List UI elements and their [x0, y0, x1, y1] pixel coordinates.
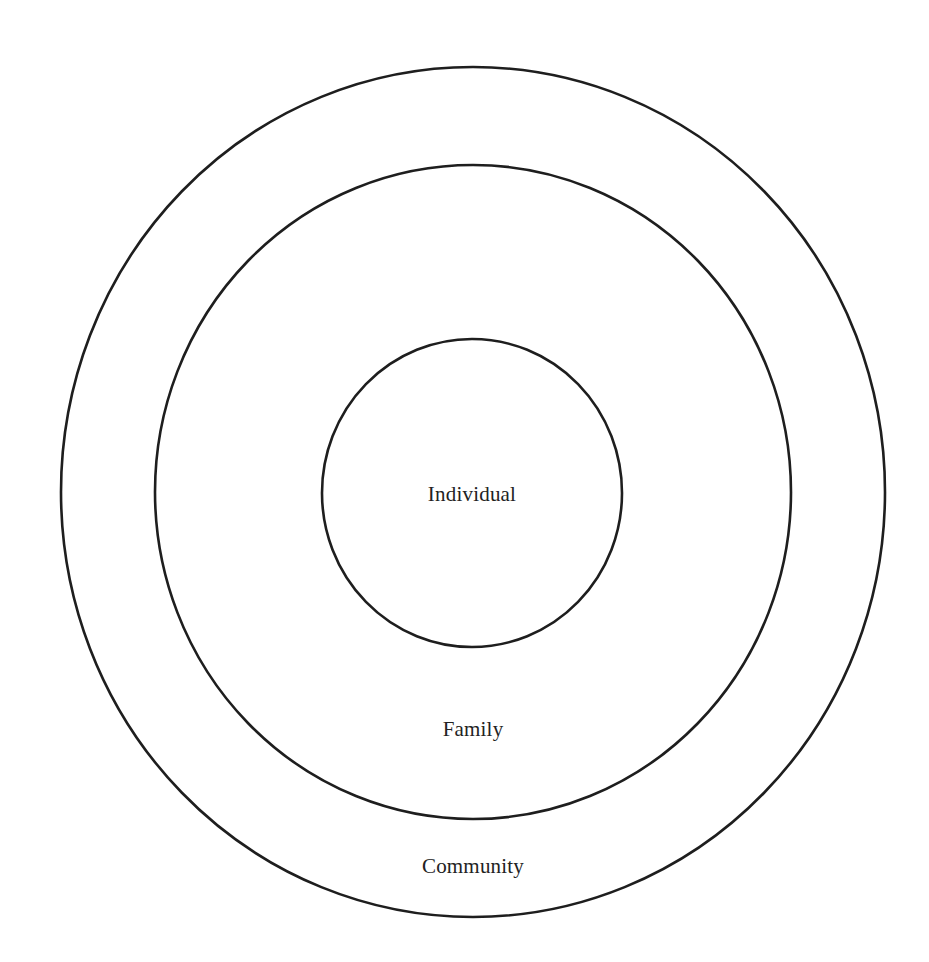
family-label: Family [443, 717, 504, 742]
individual-label: Individual [428, 482, 516, 507]
community-label: Community [422, 854, 524, 879]
